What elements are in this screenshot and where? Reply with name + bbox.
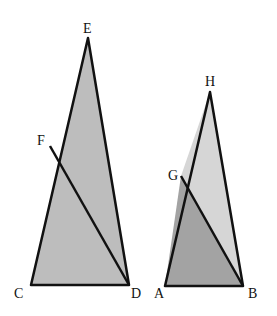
- geometry-diagram: E F C D H G A B: [0, 0, 277, 316]
- left-figure: E F C D: [14, 21, 141, 301]
- label-f: F: [37, 133, 45, 148]
- label-g: G: [168, 168, 178, 183]
- right-figure: H G A B: [154, 74, 257, 301]
- label-e: E: [83, 21, 92, 36]
- label-a: A: [154, 286, 165, 301]
- label-b: B: [248, 286, 257, 301]
- label-d: D: [131, 286, 141, 301]
- triangle-cde: [31, 38, 129, 285]
- label-h: H: [205, 74, 215, 89]
- label-c: C: [14, 286, 23, 301]
